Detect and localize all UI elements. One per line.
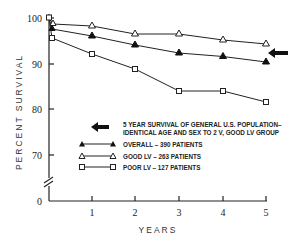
legend-overall-label: OVERALL – 390 PATIENTS: [123, 141, 202, 148]
series-good-line: [49, 18, 266, 44]
series-poor-line: [49, 18, 266, 102]
legend-arrow-icon: [91, 122, 109, 132]
y-tick-0: 0: [37, 196, 42, 207]
x-tick-3: 3: [177, 207, 182, 218]
series-good-markers: [50, 20, 270, 46]
legend-arrow-line1: 5 YEAR SURVIVAL OF GENERAL U.S. POPULATI…: [123, 121, 282, 128]
legend: 5 YEAR SURVIVAL OF GENERAL U.S. POPULATI…: [79, 121, 282, 171]
legend-good-label: GOOD LV – 263 PATIENTS: [123, 153, 201, 160]
y-tick-90: 90: [32, 59, 42, 70]
y-tick-100: 100: [27, 13, 42, 24]
y-axis-title: PERCENT SURVIVAL: [14, 54, 24, 170]
x-axis-title: YEARS: [139, 225, 178, 235]
series-poor-markers: [47, 15, 269, 105]
legend-poor-label: POOR LV – 127 PATIENTS: [123, 164, 200, 171]
y-tick-80: 80: [32, 104, 42, 115]
legend-arrow-line2: IDENTICAL AGE AND SEX TO 2 V, GOOD LV GR…: [123, 129, 279, 137]
x-tick-4: 4: [221, 207, 226, 218]
axes: [44, 14, 267, 201]
survival-chart: 100 90 80 70 0 1 2 3 4 5 YEARS PERCENT S…: [0, 0, 300, 240]
x-tick-5: 5: [264, 207, 269, 218]
x-tick-1: 1: [90, 207, 95, 218]
y-tick-70: 70: [32, 150, 42, 161]
series-overall-line: [49, 18, 266, 62]
legend-poor-marker: [80, 165, 85, 170]
population-arrow-icon: [268, 48, 288, 58]
x-tick-2: 2: [133, 207, 138, 218]
